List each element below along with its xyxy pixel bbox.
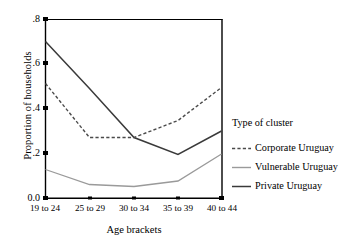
x-tick-label: 30 to 34 [119,203,149,213]
x-tick-label: 40 to 44 [207,203,237,213]
x-tick-label-group: 19 to 24 25 to 29 30 to 34 35 to 39 40 t… [0,203,347,217]
x-tick-label: 35 to 39 [163,203,193,213]
axis-frame [45,19,223,199]
line-chart-figure: .8 .6 .4 .2 0.0 19 to 24 25 to 29 30 to … [0,0,347,250]
legend-item-corporate-uruguay[interactable]: Corporate Uruguay [232,138,347,157]
x-tick-label: 19 to 24 [30,203,60,213]
y-tick-label: .8 [12,14,40,24]
legend-item-label: Vulnerable Uruguay [255,161,338,172]
series-line-vulnerable-uruguay [46,154,222,187]
legend-line-swatch-dashed-icon [232,143,251,153]
legend-item-label: Private Uruguay [255,180,322,191]
y-tick-label: 0.0 [12,193,40,203]
legend-line-swatch-solid-icon [232,162,251,172]
legend-item-label: Corporate Uruguay [255,142,334,153]
legend-item-private-uruguay[interactable]: Private Uruguay [232,176,347,195]
x-tick-label: 25 to 29 [75,203,105,213]
x-axis-title: Age brackets [45,224,223,235]
legend-title: Type of cluster [232,117,347,129]
y-axis-title: Proportion of households [22,26,33,186]
legend-item-vulnerable-uruguay[interactable]: Vulnerable Uruguay [232,157,347,176]
legend-line-swatch-solid-icon [232,181,251,191]
series-line-corporate-uruguay [46,84,222,138]
legend: Type of cluster Corporate Uruguay Vulner… [232,117,347,195]
